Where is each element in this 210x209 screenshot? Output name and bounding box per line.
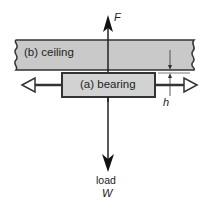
ceiling-label: (b) ceiling	[24, 46, 74, 58]
gap-arrow-up-icon	[168, 73, 172, 78]
left-open-arrowhead-icon	[22, 78, 35, 92]
load-symbol-label: W	[102, 187, 112, 199]
gap-label: h	[163, 96, 169, 108]
force-label: F	[114, 11, 121, 23]
load-label: load	[96, 174, 116, 186]
bearing-label: (a) bearing	[80, 78, 136, 90]
right-open-arrowhead-icon	[184, 78, 197, 92]
